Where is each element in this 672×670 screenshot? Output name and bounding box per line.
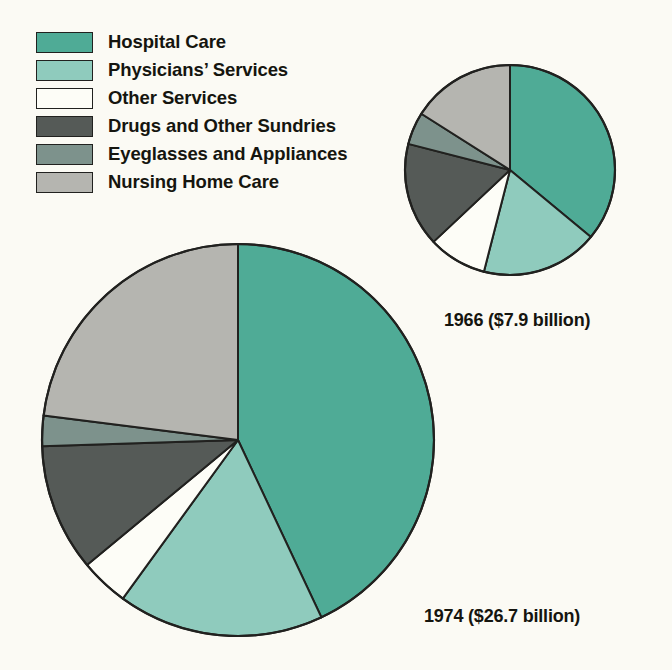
legend-item[interactable]: Drugs and Other Sundries [36,114,347,139]
legend: Hospital CarePhysicians’ ServicesOther S… [36,30,347,195]
legend-item[interactable]: Other Services [36,86,347,111]
legend-item[interactable]: Eyeglasses and Appliances [36,142,347,167]
legend-swatch-physicians-services [36,60,93,81]
legend-item-label: Eyeglasses and Appliances [108,145,347,164]
legend-item-label: Other Services [108,89,237,108]
pie-chart-figure: Hospital CarePhysicians’ ServicesOther S… [0,0,672,670]
legend-swatch-other-services [36,88,93,109]
legend-swatch-hospital-care [36,32,93,53]
pie-slice[interactable] [44,244,238,440]
legend-swatch-nursing-home-care [36,172,93,193]
legend-item[interactable]: Hospital Care [36,30,347,55]
legend-item-label: Physicians’ Services [108,61,288,80]
legend-swatch-eyeglasses-and-appliances [36,144,93,165]
legend-item[interactable]: Nursing Home Care [36,170,347,195]
legend-item-label: Hospital Care [108,33,226,52]
legend-item[interactable]: Physicians’ Services [36,58,347,83]
legend-item-label: Nursing Home Care [108,173,279,192]
pie-caption-1966: 1966 ($7.9 billion) [444,310,590,331]
legend-item-label: Drugs and Other Sundries [108,117,336,136]
legend-swatch-drugs-and-other-sundries [36,116,93,137]
pie-caption-1974: 1974 ($26.7 billion) [424,606,580,627]
